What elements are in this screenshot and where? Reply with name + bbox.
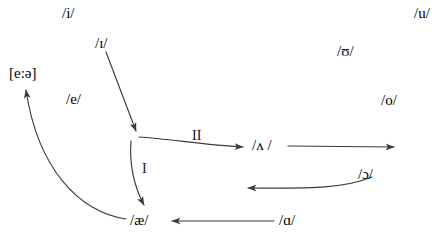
vowel-label-ash: /æ/ [130, 213, 148, 228]
arrow-label-shift-one: I [142, 162, 147, 176]
vowel-label-script-a: /ɑ/ [279, 213, 295, 228]
vowel-label-i: /i/ [62, 6, 75, 21]
arrow-open-o-to-left [248, 177, 372, 188]
arrow-wedge-to-right [288, 146, 394, 147]
vowel-label-e: /e/ [66, 92, 81, 107]
arrow-layer [0, 0, 447, 249]
vowel-label-small-i: /ɪ/ [95, 36, 108, 51]
arrow-shift-two-center-to-wedge [139, 137, 243, 147]
arrow-small-i-to-center [106, 52, 136, 131]
arrow-ash-to-e-long [26, 90, 126, 219]
arrow-label-shift-two: II [192, 129, 201, 143]
vowel-shift-diagram: /i//u//ɪ//ʊ/[e:ə]/e//o//ʌ //ɔ//æ//ɑ/ III [0, 0, 447, 249]
vowel-label-o: /o/ [381, 93, 397, 108]
vowel-label-open-o: /ɔ/ [358, 167, 373, 182]
vowel-label-wedge: /ʌ / [252, 138, 272, 153]
vowel-label-u: /u/ [414, 6, 430, 21]
vowel-label-upsilon: /ʊ/ [337, 44, 354, 59]
vowel-label-e-long: [e:ə] [9, 66, 36, 81]
